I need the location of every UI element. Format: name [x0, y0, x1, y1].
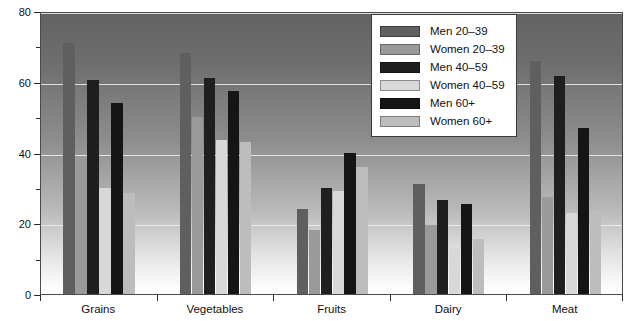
- legend-swatch: [380, 62, 420, 73]
- bar-chart-figure: 020406080 GrainsVegetablesFruitsDairyMea…: [0, 0, 629, 321]
- legend-item[interactable]: Men 20–39: [380, 22, 508, 40]
- y-tick-label: 60: [19, 77, 31, 88]
- legend-swatch: [380, 44, 420, 55]
- y-tick-label: 40: [19, 148, 31, 159]
- y-tick-label: 0: [25, 290, 31, 301]
- legend-label: Women 60+: [430, 115, 492, 127]
- bar: [554, 76, 565, 294]
- bar: [566, 213, 577, 294]
- y-tick-label: 20: [19, 219, 31, 230]
- x-tick-label: Meat: [552, 303, 578, 315]
- bar: [180, 53, 191, 294]
- bar: [344, 153, 355, 295]
- x-tick: [390, 295, 391, 301]
- bar: [87, 80, 98, 294]
- bar: [111, 103, 122, 294]
- legend-swatch: [380, 116, 420, 127]
- legend-label: Men 20–39: [430, 25, 488, 37]
- bar: [99, 188, 110, 294]
- bar: [192, 117, 203, 294]
- legend-swatch: [380, 80, 420, 91]
- legend-swatch: [380, 98, 420, 109]
- y-axis: 020406080: [0, 12, 40, 295]
- legend-label: Women 20–39: [430, 43, 505, 55]
- bar: [123, 193, 134, 294]
- bar: [204, 78, 215, 294]
- bar: [449, 248, 460, 294]
- legend-label: Men 40–59: [430, 61, 488, 73]
- legend-label: Men 60+: [430, 97, 475, 109]
- x-tick-label: Vegetables: [186, 303, 243, 315]
- legend-item[interactable]: Women 60+: [380, 112, 508, 130]
- bar: [321, 188, 332, 294]
- bar: [297, 209, 308, 294]
- bar: [461, 204, 472, 294]
- bar: [309, 230, 320, 294]
- x-tick-label: Fruits: [317, 303, 346, 315]
- gridline: [41, 13, 622, 14]
- bar: [437, 200, 448, 294]
- legend-swatch: [380, 26, 420, 37]
- legend-item[interactable]: Men 60+: [380, 94, 508, 112]
- x-tick: [40, 295, 41, 301]
- bar: [578, 128, 589, 294]
- legend-label: Women 40–59: [430, 79, 505, 91]
- bar: [413, 184, 424, 294]
- x-tick-label: Grains: [81, 303, 115, 315]
- bar: [356, 167, 367, 294]
- bar: [590, 211, 601, 294]
- bar: [530, 61, 541, 294]
- x-tick: [273, 295, 274, 301]
- x-tick: [622, 295, 623, 301]
- legend-item[interactable]: Men 40–59: [380, 58, 508, 76]
- x-axis: GrainsVegetablesFruitsDairyMeat: [40, 295, 623, 321]
- bar: [240, 142, 251, 294]
- bar: [333, 191, 344, 294]
- bar: [228, 91, 239, 294]
- legend-item[interactable]: Women 20–39: [380, 40, 508, 58]
- y-tick-label: 80: [19, 7, 31, 18]
- x-tick-label: Dairy: [435, 303, 462, 315]
- bar: [216, 140, 227, 294]
- bar: [542, 197, 553, 294]
- legend: Men 20–39Women 20–39Men 40–59Women 40–59…: [371, 14, 517, 137]
- legend-item[interactable]: Women 40–59: [380, 76, 508, 94]
- bar: [425, 225, 436, 294]
- x-tick: [506, 295, 507, 301]
- bar: [63, 43, 74, 294]
- plot-area: [40, 12, 623, 295]
- x-tick: [157, 295, 158, 301]
- bar: [473, 239, 484, 294]
- bar: [75, 156, 86, 294]
